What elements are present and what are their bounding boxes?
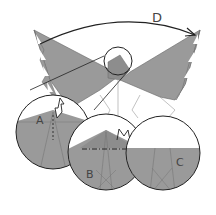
detail-label-a: A [36, 114, 44, 127]
right-wing [120, 30, 200, 100]
origami-diagram: D A B [0, 0, 216, 215]
detail-label-b: B [86, 168, 94, 181]
detail-label-c: C [176, 156, 184, 169]
detail-circle-c: C [124, 114, 204, 195]
step-label-d: D [152, 10, 162, 25]
fold-arc-arrow [40, 22, 195, 44]
